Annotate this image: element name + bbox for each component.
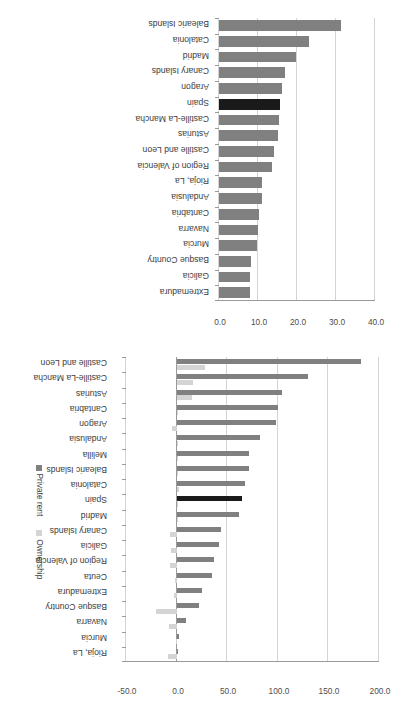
bottom-legend-label: Ownership: [35, 539, 45, 579]
top-bar: [219, 177, 262, 188]
bottom-legend-item: Ownership: [35, 530, 45, 579]
top-category-label: Murcia: [183, 239, 209, 249]
bottom-bar: [177, 557, 214, 562]
bottom-bar: [177, 588, 202, 593]
bottom-bar-slot: [120, 403, 401, 418]
bottom-bar-slot: [120, 616, 401, 631]
bottom-bar: [177, 420, 276, 425]
bottom-bar-slot: [120, 555, 401, 570]
bottom-bar: [177, 573, 212, 578]
bottom-x-tick: [122, 449, 126, 450]
bottom-bars: [120, 357, 401, 662]
top-category-label: Canary Islands: [152, 66, 209, 76]
top-ytick-label: 20.0: [281, 317, 315, 327]
bottom-category-label: Spain: [85, 495, 107, 505]
bottom-ytick-label: 50.0: [211, 686, 245, 696]
top-bar: [219, 20, 341, 31]
bottom-bar-slot: [120, 372, 401, 387]
bottom-category-label: Navarra: [76, 617, 107, 627]
bottom-category-label: Madrid: [81, 511, 107, 521]
bottom-category-label: Galicia: [81, 541, 107, 551]
top-bar-slot: [213, 254, 401, 270]
top-bar-slot: [213, 160, 401, 176]
bottom-bar: [177, 634, 179, 639]
bottom-x-tick: [122, 661, 126, 662]
bottom-category-label: Balearic Islands: [46, 465, 107, 475]
top-x-tick: [215, 81, 219, 82]
bottom-x-tick: [122, 540, 126, 541]
top-x-tick: [215, 270, 219, 271]
bottom-x-tick: [122, 586, 126, 587]
bottom-bar-slot: [120, 357, 401, 372]
top-category-label: Rioja, La: [175, 176, 209, 186]
bottom-bar: [175, 578, 177, 583]
bottom-bar: [177, 512, 240, 517]
bottom-ytick-label: -50.0: [110, 686, 144, 696]
bottom-bar: [177, 618, 186, 623]
bottom-ytick-label: 200.0: [363, 686, 397, 696]
private-rent-ownership-chart: -50.00.050.0100.0150.0200.0Castille and …: [0, 345, 401, 714]
bottom-bar: [177, 359, 361, 364]
bottom-legend-swatch: [36, 465, 42, 471]
bottom-plot-area: -50.00.050.0100.0150.0200.0: [120, 357, 401, 662]
bottom-bar: [177, 466, 250, 471]
bottom-bar: [177, 410, 178, 415]
bottom-x-tick: [122, 510, 126, 511]
bottom-bar-slot: [120, 510, 401, 525]
bottom-x-tick: [122, 525, 126, 526]
top-category-label: Navarra: [178, 224, 209, 234]
top-ytick-label: 30.0: [320, 317, 354, 327]
top-x-tick: [215, 144, 219, 145]
top-x-tick: [215, 238, 219, 239]
bottom-category-label: Asturias: [76, 389, 107, 399]
bottom-bar: [177, 481, 246, 486]
top-x-tick: [215, 18, 219, 19]
bottom-bar: [171, 548, 177, 553]
bottom-bar: [169, 624, 177, 629]
bottom-category-label: Catalonia: [71, 480, 107, 490]
bottom-x-tick: [122, 403, 126, 404]
bottom-bar-slot: [120, 479, 401, 494]
top-bar: [219, 240, 257, 251]
top-bar-slot: [213, 112, 401, 128]
bottom-ytick-label: 0.0: [161, 686, 195, 696]
top-bar: [219, 99, 280, 110]
top-category-label: Castille and Leon: [143, 145, 209, 155]
bottom-bar-slot: [120, 464, 401, 479]
top-bar: [219, 256, 251, 267]
bottom-bar-slot: [120, 433, 401, 448]
bottom-bar: [174, 593, 177, 598]
bottom-category-label: Castille-La Mancha: [33, 373, 107, 383]
bottom-bar-slot: [120, 494, 401, 509]
bottom-category-label: Andalusia: [69, 434, 107, 444]
top-category-label: Catalonia: [173, 35, 209, 45]
top-x-tick: [215, 128, 219, 129]
bottom-bar-slot: [120, 601, 401, 616]
chart-page: 0.010.020.030.040.0Balearic IslandsCatal…: [0, 0, 401, 714]
top-bar: [219, 193, 262, 204]
top-category-label: Asturias: [178, 129, 209, 139]
bottom-ytick-label: 150.0: [312, 686, 346, 696]
top-category-label: Region of Valencia: [137, 161, 209, 171]
bottom-category-label: Cantabria: [70, 404, 107, 414]
bottom-bar: [177, 649, 178, 654]
bottom-category-label: Canary Islands: [50, 526, 107, 536]
top-bars: [213, 18, 401, 301]
bottom-bar: [170, 532, 177, 537]
top-x-tick: [215, 160, 219, 161]
bottom-category-label: Melilla: [83, 450, 107, 460]
top-x-tick: [215, 254, 219, 255]
top-category-label: Aragon: [181, 82, 209, 92]
top-bar-slot: [213, 191, 401, 207]
top-bar-slot: [213, 97, 401, 113]
bottom-category-label: Basque Country: [45, 602, 107, 612]
bottom-bar: [177, 374, 309, 379]
bottom-bar-slot: [120, 449, 401, 464]
bottom-bar: [156, 609, 176, 614]
bottom-chart-stage: -50.00.050.0100.0150.0200.0Castille and …: [0, 345, 401, 714]
bottom-bar-slot: [120, 632, 401, 647]
bottom-ytick-label: 100.0: [262, 686, 296, 696]
top-x-tick: [215, 285, 219, 286]
bottom-x-tick: [122, 632, 126, 633]
top-bar: [219, 272, 250, 283]
